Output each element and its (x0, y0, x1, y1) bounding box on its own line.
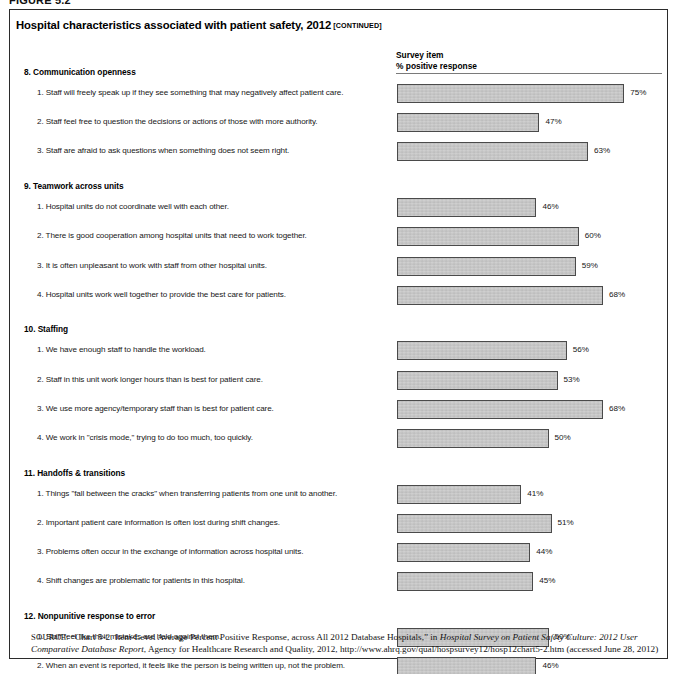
bar-value-label: 59% (582, 261, 598, 270)
bar (397, 286, 603, 305)
survey-item-label: 2. Important patient care information is… (37, 518, 280, 527)
figure-number-label: FIGURE 5.2 (9, 0, 71, 6)
chart-row: 1. Hospital units do not coordinate well… (10, 198, 667, 218)
bar (397, 400, 603, 419)
section-title: 10. Staffing (24, 324, 68, 334)
bar-value-label: 46% (542, 202, 558, 211)
section-title: 11. Handoffs & transitions (24, 468, 125, 478)
chart-row: 2. Staff in this unit work longer hours … (10, 371, 667, 391)
source-part1: “Chart 5-2. Item-Level Average Percent P… (71, 632, 440, 642)
survey-item-label: 3. Staff are afraid to ask questions whe… (37, 146, 289, 155)
source-note: SOURCE: “Chart 5-2. Item-Level Average P… (31, 632, 667, 655)
chart-row: 4. We work in "crisis mode," trying to d… (10, 429, 667, 449)
bar (397, 543, 530, 562)
survey-item-label: 3. We use more agency/temporary staff th… (37, 404, 274, 413)
bar-value-label: 60% (585, 231, 601, 240)
bar (397, 341, 567, 360)
chart-row: 2. There is good cooperation among hospi… (10, 227, 667, 247)
source-part2: , Agency for Healthcare Research and Qua… (144, 644, 658, 654)
bar (397, 257, 576, 276)
figure-frame: Hospital characteristics associated with… (9, 9, 668, 659)
bar-value-label: 75% (630, 88, 646, 97)
chart-row: 2. Important patient care information is… (10, 514, 667, 534)
bar (397, 113, 539, 132)
survey-item-label: 1. We have enough staff to handle the wo… (37, 345, 206, 354)
bar (397, 572, 533, 591)
source-label: SOURCE: (31, 632, 69, 642)
bar-value-label: 51% (558, 518, 574, 527)
bar-value-label: 68% (609, 404, 625, 413)
chart-row: 1. We have enough staff to handle the wo… (10, 341, 667, 361)
bar (397, 198, 536, 217)
bar-value-label: 45% (539, 576, 555, 585)
bar-value-label: 41% (527, 489, 543, 498)
chart-row: 2. Staff feel free to question the decis… (10, 113, 667, 133)
survey-item-label: 1. Hospital units do not coordinate well… (37, 202, 229, 211)
survey-item-label: 2. Staff feel free to question the decis… (37, 117, 318, 126)
survey-item-label: 1. Staff will freely speak up if they se… (37, 88, 343, 97)
bar-value-label: 44% (536, 547, 552, 556)
bar-value-label: 56% (573, 345, 589, 354)
bar (397, 485, 521, 504)
survey-item-label: 4. We work in "crisis mode," trying to d… (37, 433, 253, 442)
bar (397, 514, 552, 533)
chart-row: 3. Staff are afraid to ask questions whe… (10, 142, 667, 162)
bar-value-label: 50% (555, 433, 571, 442)
bar-value-label: 46% (542, 661, 558, 670)
survey-item-label: 3. Problems often occur in the exchange … (37, 547, 303, 556)
bar-value-label: 63% (594, 146, 610, 155)
chart-row: 1. Staff will freely speak up if they se… (10, 84, 667, 104)
survey-item-label: 3. It is often unpleasant to work with s… (37, 261, 267, 270)
bar (397, 84, 624, 103)
survey-item-label: 2. When an event is reported, it feels l… (37, 661, 345, 670)
chart-row: 2. When an event is reported, it feels l… (10, 657, 667, 674)
bar (397, 371, 558, 390)
chart-row: 1. Things "fall between the cracks" when… (10, 485, 667, 505)
survey-item-label: 2. Staff in this unit work longer hours … (37, 375, 263, 384)
bar-chart: 8. Communication openness1. Staff will f… (10, 10, 667, 658)
chart-row: 4. Shift changes are problematic for pat… (10, 572, 667, 592)
bar (397, 227, 579, 246)
section-title: 8. Communication openness (24, 67, 136, 77)
chart-row: 4. Hospital units work well together to … (10, 286, 667, 306)
bar-value-label: 47% (545, 117, 561, 126)
survey-item-label: 4. Shift changes are problematic for pat… (37, 576, 245, 585)
survey-item-label: 2. There is good cooperation among hospi… (37, 231, 307, 240)
chart-row: 3. Problems often occur in the exchange … (10, 543, 667, 563)
section-title: 9. Teamwork across units (24, 181, 124, 191)
bar (397, 657, 536, 674)
section-title: 12. Nonpunitive response to error (24, 611, 155, 621)
survey-item-label: 1. Things "fall between the cracks" when… (37, 489, 337, 498)
bar (397, 429, 549, 448)
bar-value-label: 53% (564, 375, 580, 384)
bar-value-label: 68% (609, 290, 625, 299)
bar (397, 142, 588, 161)
chart-row: 3. We use more agency/temporary staff th… (10, 400, 667, 420)
survey-item-label: 4. Hospital units work well together to … (37, 290, 286, 299)
chart-row: 3. It is often unpleasant to work with s… (10, 257, 667, 277)
